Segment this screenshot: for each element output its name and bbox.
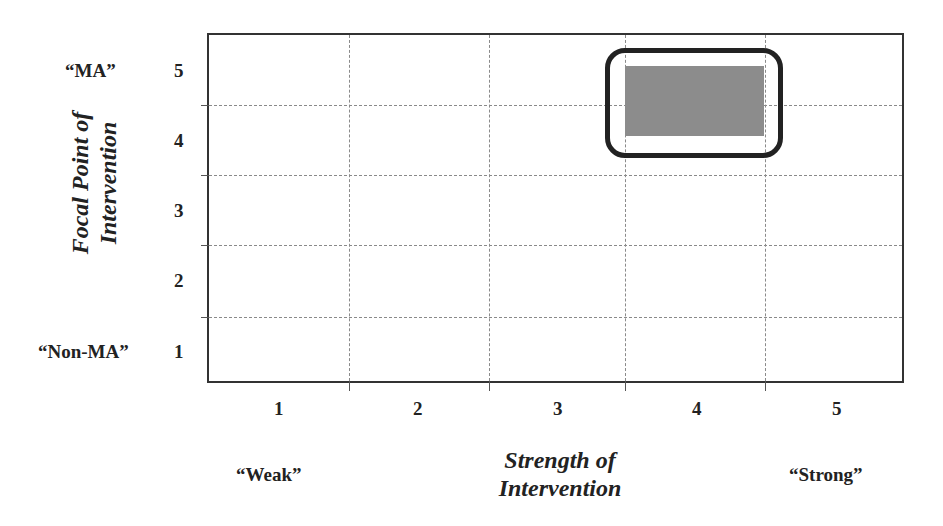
grid-line-horizontal — [209, 245, 902, 246]
x-tick-label: 2 — [413, 398, 423, 420]
y-tick-label: 1 — [174, 341, 184, 363]
x-tick-mark — [765, 381, 766, 391]
y-tick-label: 4 — [174, 130, 184, 152]
x-axis-title-line2: Intervention — [460, 474, 660, 502]
x-tick-label: 4 — [692, 398, 702, 420]
y-tick-mark — [201, 105, 209, 106]
x-tick-mark — [349, 381, 350, 391]
x-tick-label: 5 — [832, 398, 842, 420]
grid-line-horizontal — [209, 105, 902, 106]
grid-line-vertical — [349, 35, 350, 381]
y-axis-title-line1: Focal Point of — [66, 48, 94, 318]
y-low-label: “Non-MA” — [38, 341, 129, 363]
grid-line-horizontal — [209, 175, 902, 176]
x-tick-label: 3 — [553, 398, 563, 420]
x-low-label: “Weak” — [236, 464, 301, 486]
x-axis-title-line1: Strength of — [460, 446, 660, 474]
y-tick-mark — [201, 175, 209, 176]
y-axis-title: Focal Point of Intervention — [66, 48, 122, 318]
y-tick-mark — [201, 245, 209, 246]
x-tick-label: 1 — [274, 398, 284, 420]
highlight-outline — [605, 48, 783, 158]
x-tick-mark — [625, 381, 626, 391]
y-tick-label: 2 — [174, 270, 184, 292]
grid-line-horizontal — [209, 317, 902, 318]
x-high-label: “Strong” — [789, 464, 863, 486]
y-axis-title-line2: Intervention — [94, 48, 122, 318]
grid-line-vertical — [489, 35, 490, 381]
plot-area — [207, 33, 904, 383]
x-axis-title: Strength of Intervention — [460, 446, 660, 502]
y-tick-label: 3 — [174, 200, 184, 222]
y-tick-mark — [201, 317, 209, 318]
y-tick-label: 5 — [174, 60, 184, 82]
x-tick-mark — [489, 381, 490, 391]
